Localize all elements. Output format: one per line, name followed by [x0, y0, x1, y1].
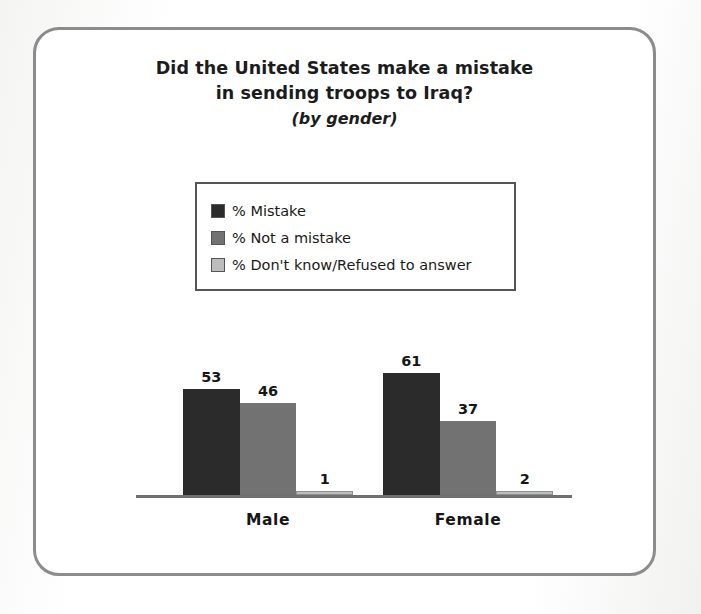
chart-title-line-1: Did the United States make a mistake	[36, 56, 653, 81]
legend-swatch-icon-dont-know	[211, 258, 225, 272]
bar-group-female-bars: 61 37 2	[383, 335, 553, 495]
bar-value-male-mistake: 53	[183, 369, 240, 385]
x-axis-baseline	[136, 495, 572, 498]
bar-male-mistake: 53	[183, 335, 240, 495]
chart-title-block: Did the United States make a mistake in …	[36, 56, 653, 131]
bar-value-female-dont-know: 2	[496, 471, 553, 487]
bar-value-male-dont-know: 1	[296, 471, 353, 487]
legend-item-mistake: % Mistake	[211, 197, 500, 224]
category-label-female: Female	[383, 511, 553, 529]
bar-value-male-not-a-mistake: 46	[240, 383, 297, 399]
legend-swatch-icon-mistake	[211, 204, 225, 218]
bar-female-dont-know: 2	[496, 335, 553, 495]
bar-rect-male-not-a-mistake	[240, 403, 297, 495]
legend-swatch-icon-not-a-mistake	[211, 231, 225, 245]
chart-legend: % Mistake % Not a mistake % Don't know/R…	[195, 182, 516, 291]
category-label-male: Male	[183, 511, 353, 529]
bar-value-female-not-a-mistake: 37	[440, 401, 497, 417]
bar-rect-male-mistake	[183, 389, 240, 495]
chart-card: Did the United States make a mistake in …	[33, 27, 656, 576]
legend-label-mistake: % Mistake	[232, 203, 306, 219]
bar-rect-female-not-a-mistake	[440, 421, 497, 495]
bar-group-male-bars: 53 46 1	[183, 335, 353, 495]
bar-group-female: 61 37 2 Female	[383, 335, 553, 495]
bar-chart: Did the United States make a mistake in …	[36, 30, 653, 573]
bar-value-female-mistake: 61	[383, 353, 440, 369]
legend-item-dont-know: % Don't know/Refused to answer	[211, 251, 500, 278]
legend-label-not-a-mistake: % Not a mistake	[232, 230, 351, 246]
chart-title-line-2: in sending troops to Iraq?	[36, 81, 653, 106]
bar-female-mistake: 61	[383, 335, 440, 495]
bar-male-not-a-mistake: 46	[240, 335, 297, 495]
bar-rect-female-mistake	[383, 373, 440, 495]
bar-male-dont-know: 1	[296, 335, 353, 495]
bar-female-not-a-mistake: 37	[440, 335, 497, 495]
legend-item-not-a-mistake: % Not a mistake	[211, 224, 500, 251]
plot-area: 53 46 1 Male	[136, 330, 572, 498]
chart-subtitle: (by gender)	[36, 107, 653, 131]
legend-label-dont-know: % Don't know/Refused to answer	[232, 257, 472, 273]
bar-group-male: 53 46 1 Male	[183, 335, 353, 495]
